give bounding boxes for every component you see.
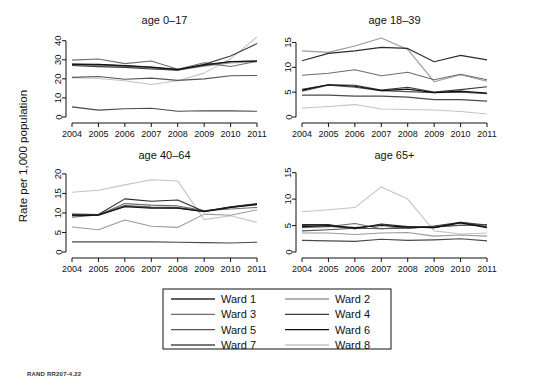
x-tick-label: 2011 xyxy=(477,264,496,274)
rand-credit: RAND RR207-4.22 xyxy=(27,371,81,377)
x-tick-label: 2008 xyxy=(398,264,418,274)
y-tick-label: 5 xyxy=(283,223,294,228)
x-tick-label: 2009 xyxy=(194,264,214,274)
x-tick-label: 2005 xyxy=(318,129,338,139)
y-tick-label: 20 xyxy=(53,74,64,85)
y-tick-label: 10 xyxy=(53,93,64,104)
y-tick-label: 40 xyxy=(53,35,64,46)
y-tick-label: 15 xyxy=(283,37,294,48)
multi-panel-line-chart: age 0–1701020304020042005200620072008200… xyxy=(0,0,535,385)
x-tick-label: 2004 xyxy=(62,129,82,139)
x-tick-label: 2010 xyxy=(221,264,241,274)
series-line-ward-5 xyxy=(72,75,257,80)
series-line-ward-8 xyxy=(72,37,257,85)
x-tick-label: 2004 xyxy=(292,129,312,139)
series-line-ward-7 xyxy=(72,242,257,243)
panel-title: age 65+ xyxy=(374,149,414,161)
x-tick-label: 2011 xyxy=(247,264,266,274)
x-tick-label: 2007 xyxy=(141,264,161,274)
legend-label: Ward 4 xyxy=(335,308,370,320)
x-tick-label: 2009 xyxy=(194,129,214,139)
figure-container: Rate per 1,000 population age 0–17010203… xyxy=(0,0,535,385)
x-tick-label: 2006 xyxy=(115,264,135,274)
series-line-ward-2 xyxy=(72,210,257,230)
x-tick-label: 2006 xyxy=(115,129,135,139)
x-tick-label: 2010 xyxy=(221,129,241,139)
x-tick-label: 2007 xyxy=(141,129,161,139)
legend-label: Ward 8 xyxy=(335,339,370,351)
y-tick-label: 5 xyxy=(283,90,294,95)
legend-label: Ward 6 xyxy=(335,324,370,336)
y-axis-label: Rate per 1,000 population xyxy=(17,71,29,241)
series-line-ward-7 xyxy=(72,107,257,111)
panel-3: age 40–640510152020042005200620072008200… xyxy=(53,149,267,274)
x-tick-label: 2005 xyxy=(88,264,108,274)
series-line-ward-8 xyxy=(302,105,487,114)
panel-title: age 40–64 xyxy=(139,149,191,161)
series-line-ward-3 xyxy=(302,70,487,80)
y-tick-label: 5 xyxy=(53,230,64,235)
series-line-ward-1 xyxy=(72,199,257,215)
series-line-ward-7 xyxy=(302,239,487,242)
panel-1: age 0–1701020304020042005200620072008200… xyxy=(53,14,267,139)
y-tick-label: 0 xyxy=(283,114,294,119)
legend-label: Ward 1 xyxy=(221,293,256,305)
legend-label: Ward 2 xyxy=(335,293,370,305)
x-tick-label: 2006 xyxy=(345,129,365,139)
x-tick-label: 2009 xyxy=(424,264,444,274)
x-tick-label: 2009 xyxy=(424,129,444,139)
y-tick-label: 15 xyxy=(283,167,294,178)
y-tick-label: 30 xyxy=(53,55,64,66)
y-tick-label: 10 xyxy=(53,208,64,219)
y-tick-label: 20 xyxy=(53,169,64,180)
y-tick-label: 0 xyxy=(53,114,64,119)
x-tick-label: 2004 xyxy=(292,264,312,274)
x-tick-label: 2010 xyxy=(451,129,471,139)
y-tick-label: 10 xyxy=(283,62,294,73)
series-line-ward-2 xyxy=(302,38,487,82)
panel-title: age 0–17 xyxy=(142,14,188,26)
x-tick-label: 2004 xyxy=(62,264,82,274)
legend-label: Ward 7 xyxy=(221,339,256,351)
legend: Ward 1Ward 2Ward 3Ward 4Ward 5Ward 6Ward… xyxy=(163,289,391,351)
x-tick-label: 2008 xyxy=(168,264,188,274)
series-line-ward-1 xyxy=(302,47,487,61)
x-tick-label: 2010 xyxy=(451,264,471,274)
y-tick-label: 0 xyxy=(53,249,64,254)
x-tick-label: 2008 xyxy=(168,129,188,139)
y-tick-label: 15 xyxy=(53,188,64,199)
panel-2: age 18–390510152004200520062007200820092… xyxy=(283,14,497,139)
panel-title: age 18–39 xyxy=(369,14,421,26)
x-tick-label: 2011 xyxy=(247,129,266,139)
x-tick-label: 2006 xyxy=(345,264,365,274)
x-tick-label: 2007 xyxy=(371,129,391,139)
x-tick-label: 2005 xyxy=(88,129,108,139)
legend-label: Ward 5 xyxy=(221,324,256,336)
x-tick-label: 2011 xyxy=(477,129,496,139)
panel-4: age 65+051015200420052006200720082009201… xyxy=(283,149,497,274)
y-tick-label: 0 xyxy=(283,249,294,254)
x-tick-label: 2008 xyxy=(398,129,418,139)
x-tick-label: 2007 xyxy=(371,264,391,274)
series-line-ward-7 xyxy=(302,95,487,101)
x-tick-label: 2005 xyxy=(318,264,338,274)
legend-label: Ward 3 xyxy=(221,308,256,320)
y-tick-label: 10 xyxy=(283,194,294,205)
